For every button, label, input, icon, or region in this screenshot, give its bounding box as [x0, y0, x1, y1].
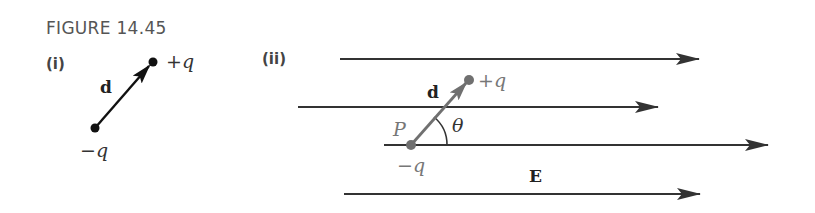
- negative-charge-dot-ii: [406, 140, 416, 150]
- dipole-vector-d-i: [95, 66, 149, 128]
- vector-label-d-i: d: [100, 77, 112, 97]
- positive-charge-dot-ii: [464, 75, 474, 85]
- positive-charge-label-i: +q: [166, 50, 194, 72]
- diagram-canvas: [0, 0, 815, 213]
- angle-arc-theta: [434, 117, 447, 145]
- point-label-p: P: [393, 118, 406, 140]
- negative-charge-dot-i: [91, 124, 100, 133]
- positive-charge-dot-i: [149, 58, 158, 67]
- field-label-e: E: [529, 166, 542, 186]
- vector-label-d-ii: d: [427, 82, 439, 102]
- dipole-ii: [406, 75, 474, 150]
- angle-label-theta: θ: [452, 114, 463, 136]
- positive-charge-label-ii: +q: [478, 69, 506, 91]
- negative-charge-label-i: −q: [80, 139, 108, 161]
- negative-charge-label-ii: −q: [397, 154, 425, 176]
